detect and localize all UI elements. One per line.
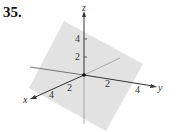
- y-arrow-icon: [150, 84, 157, 88]
- y-tick-2: 2: [105, 78, 110, 89]
- y-tick-4: 4: [135, 84, 140, 95]
- z-tick-4: 4: [75, 33, 80, 44]
- x-axis-label: x: [22, 94, 28, 105]
- x-arrow-icon: [30, 95, 37, 99]
- plane: [29, 21, 143, 131]
- z-tick-2: 2: [75, 51, 80, 62]
- 3d-plot: 4 2 z 2 4 y 2 4 x: [0, 0, 189, 132]
- z-axis-label: z: [81, 2, 86, 13]
- x-tick-2: 2: [67, 82, 72, 93]
- x-tick-4: 4: [49, 89, 54, 100]
- y-axis-label: y: [157, 82, 163, 93]
- origin-point: [82, 73, 86, 77]
